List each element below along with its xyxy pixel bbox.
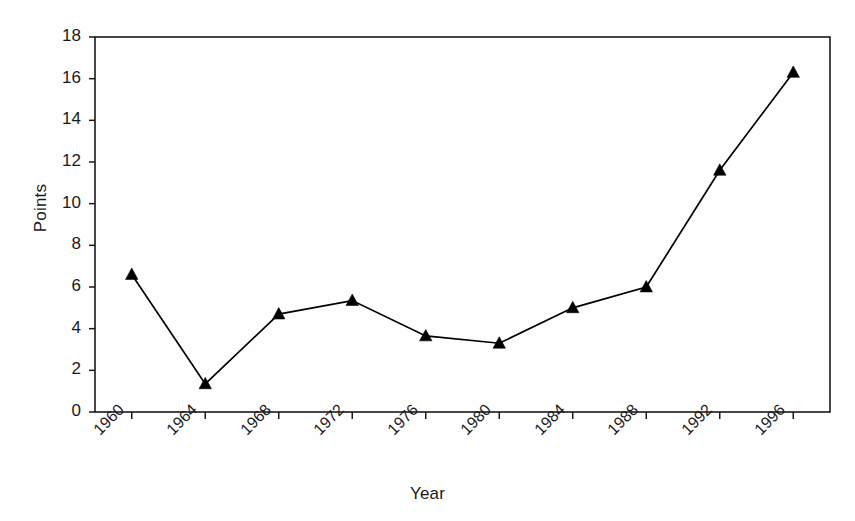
axis-frame [95, 37, 830, 412]
y-tick-label: 4 [47, 318, 81, 338]
data-point-marker [126, 268, 138, 279]
line-chart-plot [0, 0, 855, 521]
y-tick-label: 10 [47, 193, 81, 213]
y-tick-marks [89, 37, 95, 412]
data-line-points [132, 72, 794, 383]
y-tick-label: 0 [47, 401, 81, 421]
y-tick-label: 6 [47, 276, 81, 296]
y-tick-label: 2 [47, 359, 81, 379]
y-tick-label: 12 [47, 151, 81, 171]
plot-area-border [95, 37, 830, 412]
data-point-marker [346, 294, 358, 305]
data-point-marker [640, 281, 652, 292]
data-point-marker [787, 66, 799, 77]
y-tick-label: 8 [47, 234, 81, 254]
chart-figure: Points Year 024681012141618 196019641968… [0, 0, 855, 521]
y-tick-label: 14 [47, 109, 81, 129]
data-point-marker [420, 329, 432, 340]
y-tick-label: 16 [47, 68, 81, 88]
y-tick-label: 18 [47, 26, 81, 46]
